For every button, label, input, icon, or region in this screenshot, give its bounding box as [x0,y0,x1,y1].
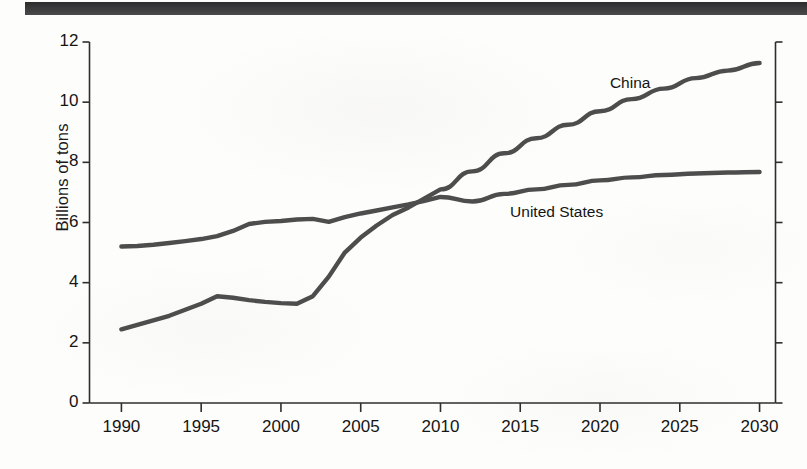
y-tick-label: 0 [45,392,79,412]
chart-page: Billions of tons 024681012 1990199520002… [0,0,807,469]
x-tick-label: 2000 [246,417,316,437]
x-tick-label: 2020 [565,417,635,437]
series-label-china: China [610,74,651,92]
y-tick-label: 2 [45,332,79,352]
line-chart-svg [0,0,807,469]
x-axis-ticks [121,403,759,412]
x-tick-label: 2015 [485,417,555,437]
x-tick-label: 1995 [166,417,236,437]
axis-frame [90,42,776,403]
x-tick-label: 1990 [86,417,156,437]
y-tick-label: 8 [45,151,79,171]
x-tick-label: 2030 [725,417,795,437]
y-axis-ticks-right [776,42,783,403]
y-tick-label: 6 [45,212,79,232]
y-tick-label: 12 [45,31,79,51]
series-label-united-states: United States [510,203,603,221]
y-axis-title: Billions of tons [53,98,72,258]
data-series-group [121,63,759,329]
x-tick-label: 2025 [645,417,715,437]
y-axis-ticks-left [83,42,90,403]
y-tick-label: 4 [45,272,79,292]
x-tick-label: 2010 [405,417,475,437]
x-tick-label: 2005 [326,417,396,437]
series-line-united-states [121,172,759,247]
y-tick-label: 10 [45,91,79,111]
chart-plot-area: Billions of tons 024681012 1990199520002… [0,0,807,469]
